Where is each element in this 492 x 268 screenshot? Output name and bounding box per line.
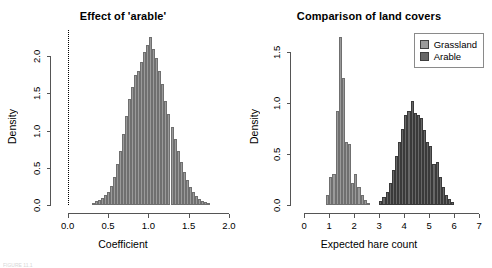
zero-reference-line [68,30,69,205]
figure-root: Effect of 'arable' Density Coefficient 0… [0,0,492,268]
y-axis-tick [287,205,291,206]
y-axis-tick [287,103,291,104]
x-axis-tick [108,214,109,218]
y-axis-tick-label: 0.0 [270,193,282,217]
x-axis-tick-label: 0.5 [92,220,124,231]
chart-panel-effect-of-arable: Effect of 'arable' Density Coefficient 0… [0,0,246,268]
legend-item: Arable [420,51,477,62]
x-axis-tick [354,214,355,218]
histogram-bar [367,203,370,205]
x-axis-tick [429,214,430,218]
legend-item-label: Grassland [434,39,477,50]
x-axis-tick [68,214,69,218]
y-axis-tick-label: 0.0 [30,193,42,217]
histogram-bar [207,203,210,205]
y-axis-tick-label: 1.5 [270,40,282,64]
x-axis-tick-label: 7 [463,220,492,231]
y-axis-tick-label: 1.0 [30,119,42,143]
x-axis-tick-label: 0.0 [52,220,84,231]
x-axis-tick [229,214,230,218]
y-axis-tick-label: 1.5 [30,81,42,105]
legend: GrasslandArable [414,33,484,68]
legend-item: Grassland [420,39,477,50]
x-axis-tick [379,214,380,218]
plot-inner-left [58,30,233,205]
legend-item-label: Arable [434,51,461,62]
y-axis-tick [47,205,51,206]
y-axis-tick [47,131,51,132]
figure-footnote: FIGURE 11.1 [3,262,33,268]
chart-title-right: Comparison of land covers [246,10,492,22]
y-axis-tick-label: 0.5 [270,142,282,166]
y-axis-tick [47,93,51,94]
y-axis-tick [47,56,51,57]
x-axis-tick [479,214,480,218]
x-axis-tick [148,214,149,218]
histogram-bar [451,202,454,205]
y-axis-tick [287,154,291,155]
y-axis-tick [287,52,291,53]
x-axis-tick-label: 2.0 [213,220,245,231]
y-axis-tick [47,168,51,169]
x-axis-tick [454,214,455,218]
y-axis-label-right: Density [248,92,260,144]
y-axis-line [290,52,291,205]
x-axis-tick [329,214,330,218]
y-axis-tick-label: 2.0 [30,44,42,68]
chart-title-left: Effect of 'arable' [0,10,246,22]
y-axis-tick-label: 0.5 [30,156,42,180]
x-axis-label-right: Expected hare count [246,238,492,250]
x-axis-tick-label: 1.0 [132,220,164,231]
y-axis-label-left: Density [6,92,18,144]
x-axis-label-left: Coefficient [0,238,246,250]
legend-swatch-icon [420,52,429,61]
x-axis-tick [304,214,305,218]
x-axis-tick-label: 1.5 [173,220,205,231]
x-axis-tick [404,214,405,218]
chart-panel-comparison-of-land-covers: Comparison of land covers Density Expect… [246,0,492,268]
x-axis-line [304,213,479,214]
plot-area-left [58,30,233,205]
legend-swatch-icon [420,40,429,49]
y-axis-tick-label: 1.0 [270,91,282,115]
x-axis-tick [189,214,190,218]
